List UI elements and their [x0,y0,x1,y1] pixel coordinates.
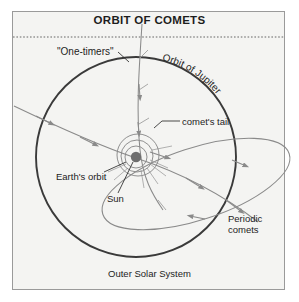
orbit-of-jupiter-label: Orbit of Jupiter [161,52,224,97]
orbit-diagram-canvas: Orbit of Jupiter [0,0,299,302]
one-timer-comet-path-a [138,24,166,210]
periodic-comets-label: Periodic comets [228,213,284,235]
leader-line-comets-tail [154,121,180,128]
figure-caption: Outer Solar System [0,269,299,280]
earths-orbit-label: Earth's orbit [56,172,106,183]
figure-title: ORBIT OF COMETS [0,14,299,27]
leader-line-earths-orbit [104,162,126,172]
sun-body [131,152,141,162]
one-timers-label: "One-timers" [57,46,114,57]
figure-root: Orbit of Jupiter ORBIT OF COMETS "One-ti… [0,0,299,302]
sun-label: Sun [107,194,124,205]
comets-tail-label: comet's tail [182,117,229,128]
